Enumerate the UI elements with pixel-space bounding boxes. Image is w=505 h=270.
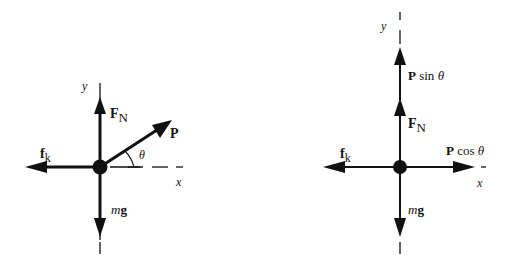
right-body-dot: [393, 160, 407, 174]
right-y-label: y: [380, 19, 387, 33]
left-y-label: y: [81, 79, 88, 93]
left-applied-force-label: P: [170, 126, 179, 141]
right-friction-arrow: [323, 161, 400, 173]
left-diagram: y x FN fk P θ mg: [25, 79, 183, 255]
right-weight-arrow: [394, 167, 406, 237]
angle-arc: [125, 151, 134, 167]
right-p-sin-label: P sin θ: [408, 68, 445, 83]
right-weight-label: mg: [408, 202, 424, 217]
free-body-diagrams: y x FN fk P θ mg: [0, 0, 505, 270]
left-angle-label: θ: [139, 148, 145, 162]
right-p-cos-arrow: [400, 161, 475, 173]
right-p-sin-arrow: [394, 47, 406, 100]
right-x-label: x: [476, 176, 483, 190]
left-weight-arrow: [94, 167, 106, 237]
right-p-cos-label: P cos θ: [446, 143, 485, 158]
right-normal-force-arrow: [394, 98, 406, 167]
right-normal-force-label: FN: [408, 116, 427, 135]
left-friction-label: fk: [40, 146, 51, 165]
left-friction-arrow: [25, 161, 100, 173]
left-normal-force-arrow: [94, 97, 106, 167]
left-weight-label: mg: [111, 202, 127, 217]
left-normal-force-label: FN: [110, 106, 129, 125]
left-body-dot: [93, 160, 108, 175]
left-x-label: x: [175, 175, 182, 189]
left-applied-force-arrow: [100, 120, 172, 167]
right-diagram: y x P sin θ FN fk P cos θ mg: [323, 12, 486, 254]
